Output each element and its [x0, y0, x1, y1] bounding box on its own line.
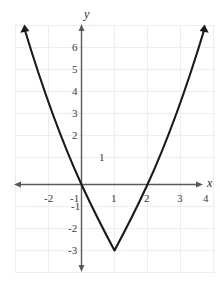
y-tick-label-5: 5	[72, 64, 78, 75]
graph-figure: -2 -1 1 2 3 4 6 5 4 3 2 1 -1 -2 -3 y x	[0, 0, 220, 288]
y-axis-label: y	[84, 8, 89, 20]
y-tick-label--3: -3	[68, 245, 77, 256]
x-tick-label--2: -2	[44, 193, 53, 204]
x-axis	[14, 182, 203, 188]
y-axis	[79, 24, 85, 272]
coordinate-plane-svg	[0, 0, 220, 288]
vertical-gridlines	[16, 25, 214, 272]
y-tick-label-4: 4	[72, 86, 78, 97]
x-tick-label-4: 4	[203, 193, 209, 204]
x-tick-label-2: 2	[144, 193, 150, 204]
y-tick-label--2: -2	[68, 223, 77, 234]
y-tick-label--1: -1	[71, 201, 80, 212]
x-tick-label-3: 3	[177, 193, 183, 204]
y-tick-label-1: 1	[99, 152, 105, 163]
x-axis-arrow-right-icon	[196, 182, 203, 188]
y-tick-label-6: 6	[72, 42, 78, 53]
y-axis-arrow-down-icon	[79, 265, 85, 272]
x-tick-label-1: 1	[111, 193, 117, 204]
x-axis-label: x	[207, 177, 212, 189]
y-tick-label-3: 3	[72, 108, 78, 119]
y-tick-label-2: 2	[72, 130, 78, 141]
